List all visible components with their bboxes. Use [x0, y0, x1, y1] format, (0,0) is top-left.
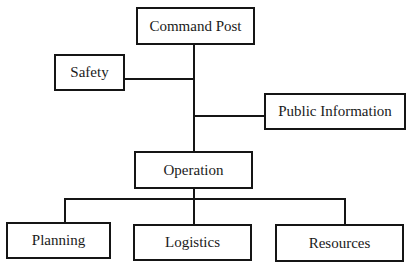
planning-label: Planning [32, 232, 85, 249]
resources-drop-connector [344, 198, 346, 225]
public-information-connector [194, 115, 265, 117]
planning-drop-connector [64, 198, 66, 223]
command-post-label: Command Post [149, 18, 241, 35]
safety-connector [123, 78, 194, 80]
public-information-label: Public Information [278, 103, 392, 120]
operation-node: Operation [134, 151, 253, 189]
planning-node: Planning [6, 222, 111, 259]
spine-connector [193, 43, 195, 152]
logistics-label: Logistics [165, 234, 220, 251]
safety-label: Safety [70, 64, 108, 81]
resources-label: Resources [309, 235, 371, 252]
resources-node: Resources [275, 224, 404, 262]
operation-label: Operation [164, 162, 224, 179]
public-information-node: Public Information [264, 93, 406, 130]
logistics-drop-connector [193, 198, 195, 225]
branch-bus-connector [64, 198, 346, 200]
command-post-node: Command Post [136, 7, 255, 45]
safety-node: Safety [54, 54, 125, 91]
logistics-node: Logistics [133, 224, 252, 261]
